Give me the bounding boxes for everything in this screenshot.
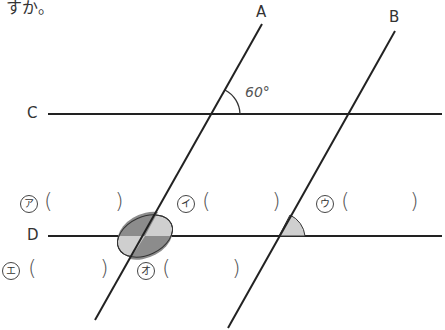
slot-e-marker: エ xyxy=(2,262,20,280)
parallel-lines-diagram xyxy=(0,0,445,330)
slot-o-marker: オ xyxy=(137,262,155,280)
slot-o-close[interactable]: ) xyxy=(232,255,241,280)
slot-u-marker: ウ xyxy=(316,195,334,213)
slot-u-open: ( xyxy=(341,188,350,213)
angle-shading-b-d xyxy=(279,215,305,236)
slot-u-close[interactable]: ) xyxy=(410,188,419,213)
header-fragment: すか。 xyxy=(6,0,54,18)
slot-i-close[interactable]: ) xyxy=(272,188,281,213)
label-a: A xyxy=(256,3,266,21)
slot-e-close[interactable]: ) xyxy=(100,255,109,280)
angle-60-label: 60° xyxy=(245,84,270,100)
angle-arc-60 xyxy=(225,90,240,114)
slot-a-close[interactable]: ) xyxy=(115,188,124,213)
slot-e-open: ( xyxy=(28,255,37,280)
slot-o-open: ( xyxy=(162,255,171,280)
slot-a-open: ( xyxy=(44,188,53,213)
label-c: C xyxy=(27,104,37,122)
label-d: D xyxy=(27,226,39,244)
label-b: B xyxy=(389,8,399,26)
line-b xyxy=(228,31,395,328)
slot-i-marker: イ xyxy=(177,195,195,213)
slot-a-marker: ア xyxy=(20,195,38,213)
slot-i-open: ( xyxy=(202,188,211,213)
